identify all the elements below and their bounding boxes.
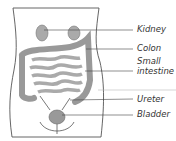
ureter-right — [62, 98, 70, 110]
ureter-left — [40, 96, 50, 110]
kidney-right — [68, 26, 80, 40]
label-colon: Colon — [137, 44, 161, 53]
label-intestine: intestine — [137, 67, 174, 76]
label-bladder: Bladder — [137, 110, 170, 119]
bladder — [49, 110, 65, 124]
kidney-left — [36, 25, 48, 41]
label-ureter: Ureter — [137, 95, 164, 104]
label-small: Small — [137, 57, 161, 66]
label-kidney: Kidney — [137, 25, 166, 34]
small-intestine — [30, 57, 82, 92]
